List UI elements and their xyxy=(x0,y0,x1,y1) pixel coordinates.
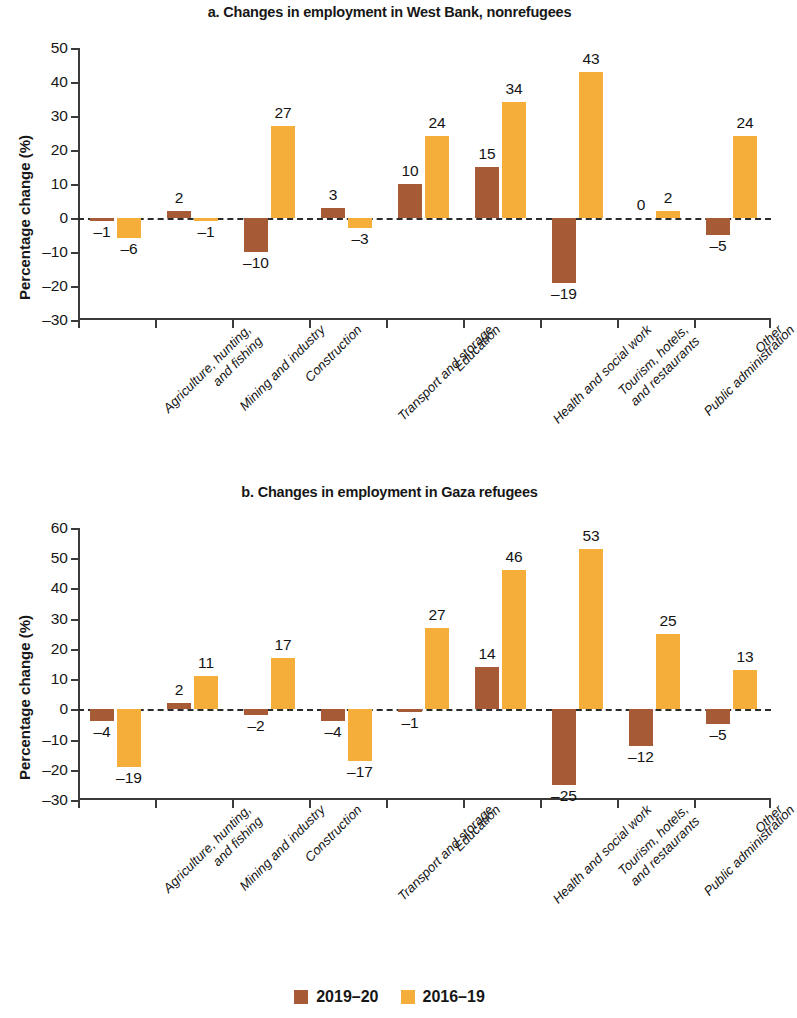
bar-value-label: 2 xyxy=(664,189,673,207)
y-axis-tick-label: –10 xyxy=(42,243,68,261)
bar-value-label: –19 xyxy=(551,285,577,303)
x-axis-category-label: Tourism, hotels,and restaurants xyxy=(615,322,703,410)
legend-label: 2019–20 xyxy=(316,988,378,1006)
y-axis-tick-label: 10 xyxy=(51,670,68,688)
y-axis-tick-label: 50 xyxy=(51,549,68,567)
y-axis-tick xyxy=(71,528,78,530)
bar xyxy=(656,634,680,710)
y-axis-tick-label: 10 xyxy=(51,175,68,193)
y-axis-tick-label: 50 xyxy=(51,39,68,57)
panel-b-category-labels: Agriculture, hunting,and fishingMining a… xyxy=(78,802,771,957)
y-axis-tick xyxy=(71,150,78,152)
bar-value-label: –5 xyxy=(709,237,726,255)
bar-value-label: 0 xyxy=(637,196,646,214)
bar xyxy=(579,72,603,218)
y-axis-tick xyxy=(71,679,78,681)
bar-value-label: 43 xyxy=(582,50,599,68)
bar-value-label: –4 xyxy=(324,723,341,741)
bar xyxy=(321,208,345,218)
legend-label: 2016–19 xyxy=(423,988,485,1006)
bar xyxy=(90,218,114,221)
y-axis-tick xyxy=(71,740,78,742)
panel-a-y-axis-title: Percentage change (%) xyxy=(16,135,33,300)
bar-value-label: –6 xyxy=(120,240,137,258)
bar-value-label: 24 xyxy=(736,114,753,132)
bar-value-label: 46 xyxy=(505,548,522,566)
y-axis-tick xyxy=(71,116,78,118)
bar-value-label: –1 xyxy=(401,714,418,732)
bar-value-label: 27 xyxy=(428,606,445,624)
bar xyxy=(475,167,499,218)
bar-value-label: –1 xyxy=(197,223,214,241)
bar-value-label: –10 xyxy=(243,254,269,272)
bar-group: –4–17 xyxy=(309,528,386,800)
bar-value-label: 3 xyxy=(329,186,338,204)
bar xyxy=(502,570,526,709)
bar xyxy=(167,211,191,218)
bar-group: –4–19 xyxy=(78,528,155,800)
bar xyxy=(398,709,422,712)
bar-group: –1225 xyxy=(617,528,694,800)
bar xyxy=(194,218,218,221)
chart-panel-a: a. Changes in employment in West Bank, n… xyxy=(0,0,779,480)
bar xyxy=(117,218,141,238)
bar xyxy=(117,709,141,766)
y-axis-tick-label: –20 xyxy=(42,761,68,779)
bar xyxy=(271,126,295,218)
panel-a-title: a. Changes in employment in West Bank, n… xyxy=(0,4,779,20)
bar-group: –1–6 xyxy=(78,48,155,320)
bar-value-label: 17 xyxy=(274,636,291,654)
y-axis-tick xyxy=(71,48,78,50)
bar-value-label: 27 xyxy=(274,104,291,122)
bar xyxy=(271,658,295,709)
y-axis-tick-label: –10 xyxy=(42,731,68,749)
y-axis-tick xyxy=(71,800,78,802)
y-axis-tick-label: 30 xyxy=(51,610,68,628)
bar xyxy=(425,136,449,218)
chart-panel-b: b. Changes in employment in Gaza refugee… xyxy=(0,480,779,960)
bar-group: 02 xyxy=(617,48,694,320)
bar-value-label: 15 xyxy=(478,145,495,163)
y-axis-tick-label: –30 xyxy=(42,311,68,329)
bar xyxy=(321,709,345,721)
bar-value-label: 13 xyxy=(736,648,753,666)
y-axis-tick-label: 40 xyxy=(51,579,68,597)
legend-swatch-icon xyxy=(401,990,415,1004)
bar-group: –1027 xyxy=(232,48,309,320)
y-axis-tick xyxy=(71,184,78,186)
legend-swatch-icon xyxy=(294,990,308,1004)
bar-value-label: 2 xyxy=(175,189,184,207)
bar-value-label: –3 xyxy=(351,230,368,248)
panel-b-y-axis-title: Percentage change (%) xyxy=(16,615,33,780)
bar-value-label: 10 xyxy=(401,162,418,180)
x-axis-category-label: Public administration xyxy=(700,802,797,899)
bar-value-label: 11 xyxy=(198,654,214,672)
y-axis-tick xyxy=(71,218,78,220)
bar-value-label: 2 xyxy=(175,681,184,699)
bar xyxy=(706,218,730,235)
y-axis-tick-label: 30 xyxy=(51,107,68,125)
y-axis-tick xyxy=(71,649,78,651)
bar-value-label: –4 xyxy=(93,723,110,741)
bar-value-label: –2 xyxy=(247,717,264,735)
bar-group: 1446 xyxy=(463,528,540,800)
bar-value-label: –19 xyxy=(116,769,142,787)
panel-a-category-labels: Agriculture, hunting,and fishingMining a… xyxy=(78,322,771,477)
bar xyxy=(348,709,372,760)
bar xyxy=(425,628,449,710)
y-axis-tick xyxy=(71,770,78,772)
bar-value-label: 25 xyxy=(659,612,676,630)
category-label-line: Public administration xyxy=(700,322,797,419)
y-axis-tick xyxy=(71,619,78,621)
bar-value-label: 14 xyxy=(478,645,495,663)
bar xyxy=(579,549,603,709)
bar xyxy=(244,218,268,252)
bar-value-label: 24 xyxy=(428,114,445,132)
bar-value-label: 53 xyxy=(582,527,599,545)
bar xyxy=(733,136,757,218)
panel-b-title: b. Changes in employment in Gaza refugee… xyxy=(0,484,779,500)
bar-value-label: –17 xyxy=(347,763,373,781)
bar xyxy=(656,211,680,218)
bar xyxy=(706,709,730,724)
